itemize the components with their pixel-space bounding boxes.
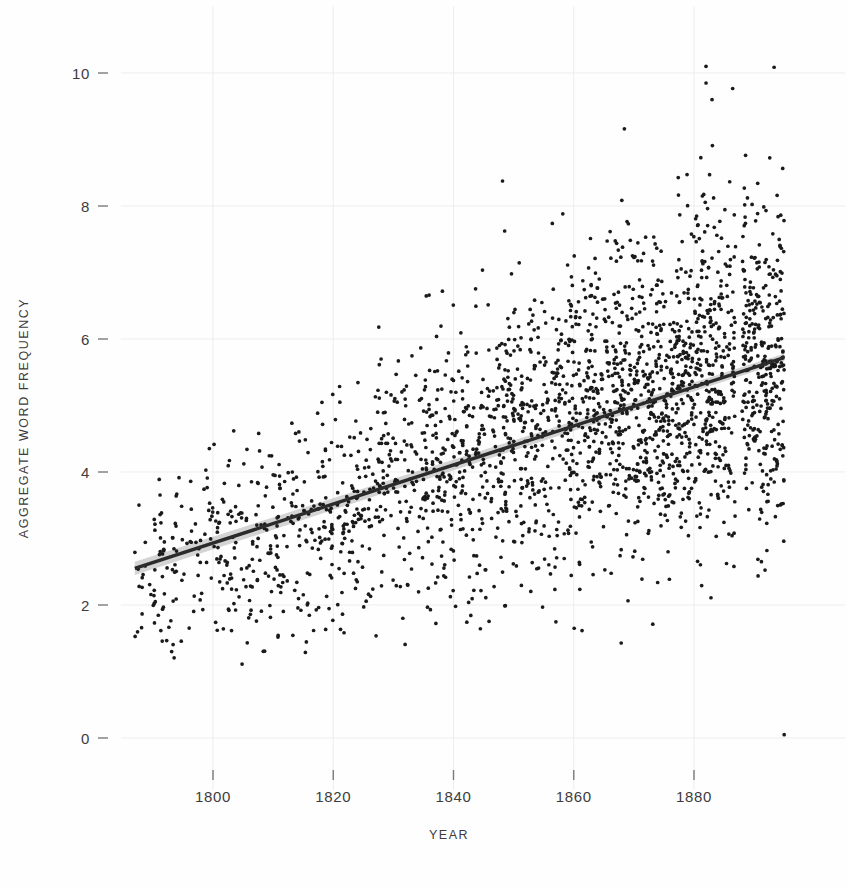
x-tick-label: 1880 xyxy=(676,788,712,805)
grid-lines xyxy=(121,6,845,790)
x-axis-title: YEAR xyxy=(429,828,469,842)
y-tick-label: 4 xyxy=(52,464,90,481)
y-axis-title: AGGREGATE WORD FREQUENCY xyxy=(17,298,31,538)
plot-canvas xyxy=(0,0,847,888)
y-tick-label: 6 xyxy=(52,331,90,348)
x-tick-label: 1820 xyxy=(315,788,351,805)
trend-line xyxy=(135,358,784,569)
x-tick-label: 1840 xyxy=(436,788,472,805)
tick-marks xyxy=(98,73,694,780)
scatter-chart: 0246810 18001820184018601880 AGGREGATE W… xyxy=(0,0,847,888)
y-tick-label: 10 xyxy=(52,65,90,82)
y-tick-label: 8 xyxy=(52,198,90,215)
x-tick-label: 1860 xyxy=(556,788,592,805)
y-tick-label: 2 xyxy=(52,597,90,614)
scatter-points xyxy=(133,65,786,737)
x-tick-label: 1800 xyxy=(195,788,231,805)
y-tick-label: 0 xyxy=(52,730,90,747)
